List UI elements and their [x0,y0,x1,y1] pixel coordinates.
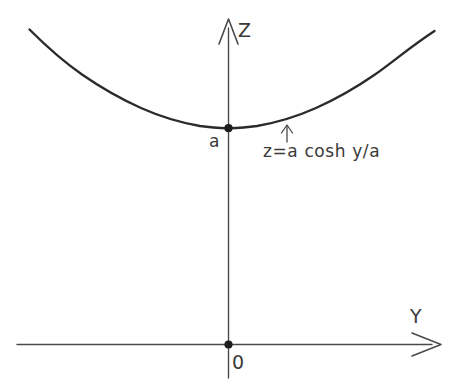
z-intercept-label: a [209,133,219,150]
figure-canvas [0,0,469,390]
origin-point [224,340,232,348]
equation-callout-arrow-icon [282,125,293,142]
catenary-figure: Z Y a 0 z=a cosh y/a [0,0,469,390]
z-axis-label: Z [238,21,251,40]
y-axis-label: Y [410,307,422,326]
origin-label: 0 [232,353,244,372]
curve-equation-label: z=a cosh y/a [263,143,380,160]
vertex-point [224,124,232,132]
catenary-curve [30,30,435,129]
